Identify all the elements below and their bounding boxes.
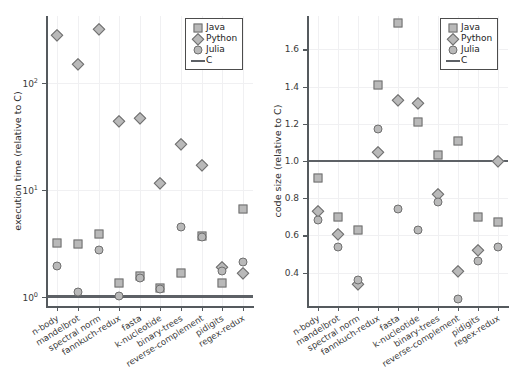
data-point-julia xyxy=(197,233,206,242)
gridline-vertical xyxy=(181,16,182,306)
caption-strip xyxy=(0,357,519,367)
legend-line-icon xyxy=(191,60,205,63)
data-point-java xyxy=(494,218,503,227)
data-point-julia xyxy=(494,242,503,251)
legend-item-julia[interactable]: Julia xyxy=(190,44,237,55)
data-point-python xyxy=(154,177,166,189)
gridline-horizontal xyxy=(308,87,508,88)
data-point-python xyxy=(372,146,384,158)
data-point-java xyxy=(218,278,227,287)
data-point-java xyxy=(94,229,103,238)
data-point-python xyxy=(175,138,187,150)
legend-item-julia[interactable]: Julia xyxy=(445,44,492,55)
legend-symbol-square-icon xyxy=(190,22,206,33)
data-point-julia xyxy=(156,285,165,294)
x-axis-tick xyxy=(338,307,339,311)
y-axis-line xyxy=(46,16,48,308)
legend-symbol-line-icon xyxy=(445,55,461,66)
data-point-julia xyxy=(73,288,82,297)
legend-item-label: Java xyxy=(206,22,225,33)
y-axis-tick-label: 0.4 xyxy=(260,268,299,278)
data-point-julia xyxy=(218,266,227,275)
data-point-julia xyxy=(176,222,185,231)
data-point-java xyxy=(115,278,124,287)
x-axis-tick xyxy=(378,307,379,311)
data-point-python xyxy=(452,265,464,277)
data-point-julia xyxy=(374,125,383,134)
reference-line-c xyxy=(308,160,508,163)
legend-execution-time: JavaPythonJuliaC xyxy=(185,18,243,70)
legend-symbol-diamond-icon xyxy=(190,33,206,44)
data-point-python xyxy=(92,23,104,35)
legend-item-python[interactable]: Python xyxy=(445,33,492,44)
x-axis-tick xyxy=(358,307,359,311)
y-axis-tick-label: 100 xyxy=(0,291,38,303)
data-point-java xyxy=(354,225,363,234)
legend-item-java[interactable]: Java xyxy=(445,22,492,33)
legend-item-label: Java xyxy=(461,22,480,33)
y-axis-tick-label: 0.6 xyxy=(260,230,299,240)
x-axis-tick xyxy=(78,307,79,311)
legend-symbol-circle-icon xyxy=(445,44,461,55)
x-axis-tick xyxy=(243,307,244,311)
y-axis-tick-label: 1.2 xyxy=(260,119,299,129)
x-axis-tick xyxy=(222,307,223,311)
data-point-java xyxy=(53,238,62,247)
chart-panel-execution-time: execution time (relative to C) JavaPytho… xyxy=(0,0,260,367)
legend-item-label: Python xyxy=(461,33,492,44)
data-point-python xyxy=(412,97,424,109)
x-axis-tick xyxy=(119,307,120,311)
data-point-julia xyxy=(135,273,144,282)
y-axis-tick-label: 1.6 xyxy=(260,44,299,54)
x-axis-tick xyxy=(160,307,161,311)
data-point-julia xyxy=(238,258,247,267)
data-point-python xyxy=(472,244,484,256)
legend-item-label: Julia xyxy=(206,44,225,55)
chart-panel-code-size: code size (relative to C) JavaPythonJuli… xyxy=(260,0,519,367)
data-point-julia xyxy=(354,275,363,284)
data-point-julia xyxy=(53,261,62,270)
gridline-vertical xyxy=(99,16,100,306)
y-axis-tick xyxy=(42,190,46,191)
data-point-java xyxy=(238,205,247,214)
data-point-java xyxy=(474,212,483,221)
data-point-julia xyxy=(314,216,323,225)
y-axis-tick xyxy=(303,49,307,50)
x-axis-tick xyxy=(418,307,419,311)
gridline-vertical xyxy=(140,16,141,306)
x-axis-tick xyxy=(99,307,100,311)
data-point-julia xyxy=(454,294,463,303)
data-point-python xyxy=(237,267,249,279)
data-point-java xyxy=(176,269,185,278)
x-axis-tick xyxy=(398,307,399,311)
data-point-python xyxy=(332,227,344,239)
legend-item-java[interactable]: Java xyxy=(190,22,237,33)
data-point-python xyxy=(51,29,63,41)
legend-item-python[interactable]: Python xyxy=(190,33,237,44)
x-axis-tick xyxy=(438,307,439,311)
y-axis-tick xyxy=(303,273,307,274)
data-point-julia xyxy=(474,257,483,266)
y-axis-tick xyxy=(303,161,307,162)
y-axis-label-execution-time: execution time (relative to C) xyxy=(12,91,23,230)
data-point-python xyxy=(134,112,146,124)
figure-root: execution time (relative to C) JavaPytho… xyxy=(0,0,519,367)
legend-item-c[interactable]: C xyxy=(445,55,492,66)
legend-line-icon xyxy=(446,60,460,63)
legend-symbol-circle-icon xyxy=(190,44,206,55)
gridline-vertical xyxy=(119,16,120,306)
data-point-java xyxy=(334,212,343,221)
data-point-java xyxy=(73,240,82,249)
legend-item-c[interactable]: C xyxy=(190,55,237,66)
data-point-java xyxy=(314,173,323,182)
gridline-horizontal xyxy=(47,190,253,191)
data-point-julia xyxy=(94,245,103,254)
legend-item-label: Python xyxy=(206,33,237,44)
gridline-vertical xyxy=(160,16,161,306)
data-point-julia xyxy=(434,197,443,206)
data-point-python xyxy=(392,94,404,106)
data-point-java xyxy=(434,151,443,160)
legend-symbol-diamond-icon xyxy=(445,33,461,44)
legend-symbol-square-icon xyxy=(445,22,461,33)
x-axis-tick xyxy=(140,307,141,311)
